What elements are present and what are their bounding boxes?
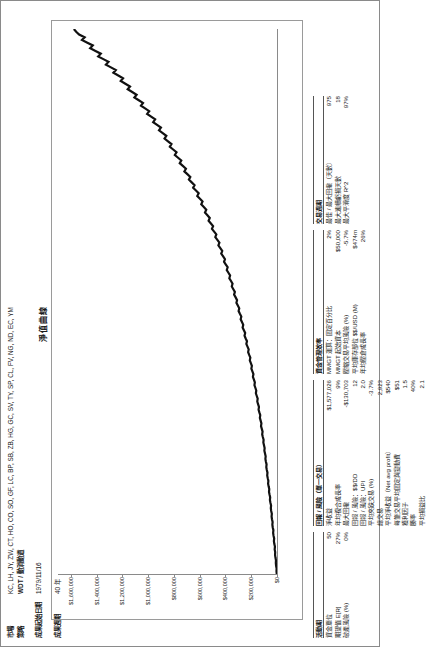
stats-section-heading: 活動期	[313, 532, 324, 638]
stats-row-label: 最大連續虧損天數	[334, 109, 342, 224]
stats-row: 回報 / 風險：$$/DD12	[351, 380, 359, 526]
stats-row: 破產風險 (%)0%	[342, 532, 350, 638]
stats-row: 總交易2,923	[376, 380, 384, 526]
stats-row: 淨收益$1,577,026	[325, 380, 333, 526]
stats-row-value: $50,000	[334, 230, 342, 252]
stats-row: 資金單位50	[325, 532, 333, 638]
stats-row-value: 26%	[359, 230, 367, 242]
chart-y-tick-label: $1,600,000	[68, 577, 74, 605]
stats-row-value: $540	[384, 380, 392, 394]
stats-row-value: $474m	[351, 230, 359, 249]
header-label-strategy: 策略	[16, 594, 26, 638]
chart-y-tick-label: $0	[274, 577, 280, 583]
stats-row-label: 平均淨收益（Net avg profit）	[384, 400, 392, 526]
chart-y-tick-label: $1,200,000	[119, 577, 125, 605]
chart-title: 淨值曲線	[37, 1, 48, 646]
stats-section-heading: 交易週期	[313, 96, 324, 224]
stats-row: 勝率40%	[409, 380, 417, 526]
stats-row-label: 最大回撤	[342, 413, 350, 526]
stats-row-value: 40%	[409, 380, 417, 392]
stats-row-label: 年均複合成長率	[334, 395, 342, 526]
stats-row: 最大連續虧損天數18	[334, 96, 342, 224]
header-row-strategy: 策略 WDT / 動消動道	[16, 6, 26, 638]
stats-row-value: $1,577,026	[325, 380, 333, 411]
stats-row-label: 回報 / 風險：UPI	[359, 394, 367, 526]
chart-y-tick-label: $800,000	[171, 577, 177, 600]
stats-row: 最佳 / 最大回撤（天數）975	[325, 96, 333, 224]
chart-y-tick-label: $600,000	[197, 577, 203, 600]
stats-row: MMGT 起始資本$50,000	[334, 230, 342, 374]
stats-row: 獲利因子1.5	[401, 380, 409, 526]
stats-row-value: 2,923	[376, 380, 384, 395]
stats-row-value: $51	[393, 380, 401, 390]
stats-row-label: 壓縮交易平均風險 (%)	[342, 252, 350, 374]
stats-row-label: 平均庫存部位 $$/USD (M)	[351, 255, 359, 374]
header-value-market: KC, LH, JY, ZW, CT, HO, CO, SO, GF, LC, …	[6, 6, 16, 594]
stats-row-value: 18	[334, 96, 342, 103]
stats-row-value: 1.5	[401, 380, 409, 388]
stats-row-value: 12	[351, 380, 359, 387]
stats-row-value: -3.7%	[367, 380, 375, 396]
stats-row-value: 50	[325, 532, 333, 539]
stats-row: 平均夾跌交易 (%)-3.7%	[367, 380, 375, 526]
stats-section-heading: 資金管理效率	[313, 230, 324, 374]
chart-y-tick-mark	[225, 574, 226, 577]
stats-row-label: 每筆交易平均固定與變動費	[393, 396, 401, 526]
stats-row-label: 年均壓倉成長率	[359, 248, 367, 374]
stats-row-value: -5.7%	[342, 230, 350, 246]
stats-row-label: 淨收益	[325, 417, 333, 527]
stats-row-label: 總交易	[376, 401, 384, 526]
stats-row: 年均複合成長率9%	[334, 380, 342, 526]
stats-column-activity: 活動期資金單位50期望值 E[R]27%破產風險 (%)0%	[313, 526, 426, 638]
stats-row: 回報 / 風險：UPI2.0	[359, 380, 367, 526]
statistics-panel: 活動期資金單位50期望值 E[R]27%破產風險 (%)0% 回報 / 風險（單…	[313, 6, 426, 638]
stats-row: 每筆交易平均固定與變動費$51	[393, 380, 401, 526]
stats-row: 最大回撤-$130,703	[342, 380, 350, 526]
stats-row: 期望值 E[R]27%	[334, 532, 342, 638]
header-value-strategy: WDT / 動消動道	[16, 6, 26, 594]
equity-curve-chart: $0$200,000$400,000$600,000$800,000$1,000…	[51, 20, 303, 620]
stats-row-label: 期望值 E[R]	[334, 550, 342, 638]
stats-row-label: MMGT 運算：固定百分比	[325, 245, 333, 374]
stats-row-label: 最大平滑度 R^2	[342, 114, 350, 224]
chart-y-tick-label: $400,000	[222, 577, 228, 600]
stats-row: 年均壓倉成長率26%	[359, 230, 367, 374]
chart-y-tick-mark	[148, 574, 149, 577]
stats-row-label: 獲利因子	[401, 394, 409, 526]
stats-row-label: 平均夾跌交易 (%)	[367, 402, 375, 526]
stats-row-value: 9%	[334, 380, 342, 389]
stats-row-label: 勝率	[409, 398, 417, 526]
chart-y-tick-mark	[97, 574, 98, 577]
stats-row: 平均庫存部位 $$/USD (M)$474m	[351, 230, 359, 374]
stats-row-label: 平均損益比	[418, 394, 426, 526]
stats-row-label: 破產風險 (%)	[342, 547, 350, 638]
stats-row-value: 27%	[334, 532, 342, 544]
stats-row-label: 回報 / 風險：$$/DD	[351, 393, 359, 526]
stats-row-value: 2.0	[359, 380, 367, 388]
chart-y-tick-mark	[251, 574, 252, 577]
chart-y-tick-label: $1,400,000	[94, 577, 100, 605]
stats-row-value: 2.1	[418, 380, 426, 388]
chart-y-tick-mark	[200, 574, 201, 577]
header-row-market: 市場 KC, LH, JY, ZW, CT, HO, CO, SO, GF, L…	[6, 6, 16, 638]
stats-column-trade-cycle: 交易週期最佳 / 最大回撤（天數）975最大連續虧損天數18最大平滑度 R^29…	[313, 90, 426, 224]
stats-row: 平均淨收益（Net avg profit）$540	[384, 380, 392, 526]
chart-y-tick-mark	[174, 574, 175, 577]
stats-row: MMGT 運算：固定百分比2%	[325, 230, 333, 374]
chart-y-tick-label: $1,000,000	[145, 577, 151, 605]
chart-y-tick-mark	[277, 574, 278, 577]
stats-row: 平均損益比2.1	[418, 380, 426, 526]
stats-row-value: 2%	[325, 230, 333, 239]
chart-y-tick-mark	[71, 574, 72, 577]
stats-row-value: 0%	[342, 532, 350, 541]
stats-row-value: 97%	[342, 96, 350, 108]
stats-row-label: MMGT 起始資本	[334, 258, 342, 374]
chart-y-tick-mark	[122, 574, 123, 577]
stats-column-money-management: 資金管理效率MMGT 運算：固定百分比2%MMGT 起始資本$50,000壓縮交…	[313, 224, 426, 374]
stats-row-label: 資金單位	[325, 545, 333, 638]
header-label-market: 市場	[6, 594, 16, 638]
stats-section-heading: 回報 / 風險（單一交易）	[313, 380, 324, 526]
stats-row-value: -$130,703	[342, 380, 350, 407]
